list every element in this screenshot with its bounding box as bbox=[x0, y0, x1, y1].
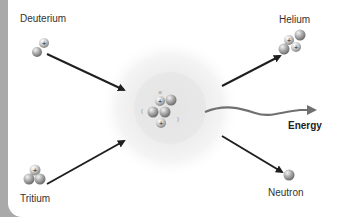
svg-text:+: + bbox=[158, 98, 162, 105]
neutron-particle bbox=[284, 170, 295, 181]
tritium-arrow bbox=[47, 141, 124, 184]
neutron-arrow bbox=[222, 136, 282, 172]
deuterium-atom: + bbox=[32, 38, 49, 57]
svg-text:): ) bbox=[177, 116, 179, 122]
svg-text:(: ( bbox=[141, 108, 143, 114]
energy-label: Energy bbox=[288, 120, 322, 131]
svg-text:≋: ≋ bbox=[158, 89, 162, 95]
svg-text:+: + bbox=[294, 44, 298, 51]
helium-label: Helium bbox=[279, 14, 310, 25]
svg-text:+: + bbox=[159, 120, 163, 127]
proton-plus-icon: + bbox=[42, 39, 47, 48]
fusion-diagram: + + + + ≋ ( ) + + bbox=[0, 0, 337, 217]
tritium-atom: + bbox=[24, 165, 46, 185]
tritium-label: Tritium bbox=[20, 193, 50, 204]
svg-text:+: + bbox=[287, 37, 291, 44]
helium-atom: + + bbox=[279, 30, 306, 55]
deuterium-label: Deuterium bbox=[20, 13, 66, 24]
proton-plus-icon: + bbox=[33, 166, 38, 175]
helium-arrow bbox=[222, 56, 280, 86]
neutron-label: Neutron bbox=[268, 187, 304, 198]
